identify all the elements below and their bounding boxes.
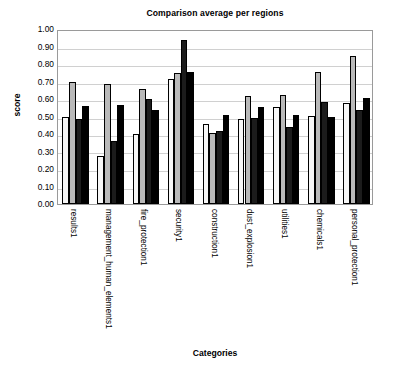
y-axis-tick-label: 0.70: [20, 78, 54, 87]
bar: [258, 107, 265, 204]
bar: [117, 105, 124, 204]
bar: [187, 72, 194, 204]
y-axis-tick-label: 0.30: [20, 148, 54, 157]
bar: [280, 95, 287, 204]
bar: [181, 40, 188, 205]
bar: [273, 107, 280, 204]
y-axis-tick-label: 1.00: [20, 25, 54, 34]
x-axis-category-label: results1: [69, 209, 78, 238]
bar: [315, 72, 322, 204]
y-axis-tick-label: 0.40: [20, 130, 54, 139]
y-axis-tick-label: 0.20: [20, 165, 54, 174]
x-axis-category-label: personal_protection1: [350, 209, 359, 285]
bar: [223, 115, 230, 204]
bar: [293, 115, 300, 204]
bar: [133, 134, 140, 204]
x-axis-category-label: dust_explosion1: [245, 209, 254, 268]
bar: [216, 131, 223, 204]
bar: [238, 119, 245, 204]
bar: [69, 82, 76, 204]
plot-area: [57, 30, 373, 205]
bar: [321, 102, 328, 204]
bar: [97, 156, 104, 204]
bar: [343, 103, 350, 204]
bar-group: [58, 31, 93, 204]
bar: [308, 116, 315, 204]
bar: [356, 110, 363, 205]
bar: [328, 117, 335, 204]
bar: [62, 117, 69, 205]
bar: [203, 124, 210, 205]
y-axis-tick-label: 0.00: [20, 200, 54, 209]
bar-chart: Comparison average per regions score 1.0…: [0, 0, 400, 382]
x-axis-label: Categories: [57, 348, 373, 358]
bar-group: [163, 31, 198, 204]
bar: [286, 127, 293, 204]
bar-group: [93, 31, 128, 204]
bar: [350, 56, 357, 204]
bar-group: [339, 31, 373, 204]
bar: [139, 89, 146, 204]
bar-group: [198, 31, 233, 204]
x-axis-category-label: management_human_elements1: [104, 209, 113, 329]
y-axis-tick-label: 0.10: [20, 183, 54, 192]
y-axis-tick-label: 0.60: [20, 95, 54, 104]
x-axis-category-label: construction1: [210, 209, 219, 258]
y-axis-tick-label: 0.50: [20, 113, 54, 122]
bar-group: [304, 31, 339, 204]
bar: [363, 98, 370, 204]
bar-group: [234, 31, 269, 204]
bar: [251, 118, 258, 204]
bar: [168, 79, 175, 204]
bar: [111, 141, 118, 204]
x-axis-category-label: chemicals1: [315, 209, 324, 250]
bar: [146, 99, 153, 204]
bar: [152, 110, 159, 204]
x-axis-category-label: utilities1: [280, 209, 289, 239]
bar: [209, 133, 216, 204]
bar: [82, 106, 89, 204]
bar-group: [269, 31, 304, 204]
x-axis-category-label: security1: [174, 209, 183, 242]
bar: [245, 96, 252, 204]
y-axis-tick-label: 0.80: [20, 60, 54, 69]
y-axis-tick-label: 0.90: [20, 43, 54, 52]
bar-group: [128, 31, 163, 204]
bar: [174, 73, 181, 204]
bar: [104, 84, 111, 204]
chart-title: Comparison average per regions: [57, 8, 373, 18]
x-axis-category-label: fire_protection1: [139, 209, 148, 265]
bar: [76, 119, 83, 204]
